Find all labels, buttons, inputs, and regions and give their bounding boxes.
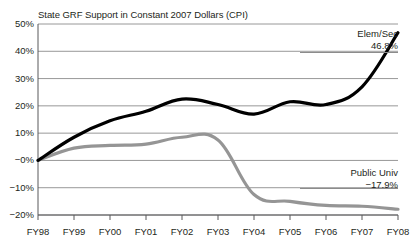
x-axis-tick-label: FY00	[90, 226, 130, 237]
y-axis-tick-label: −10%	[0, 183, 34, 193]
x-axis-tick-label: FY08	[378, 226, 416, 237]
y-axis-tick-label: −20%	[0, 210, 34, 220]
x-axis-tick-label: FY06	[306, 226, 346, 237]
series-line-public-univ	[38, 134, 398, 209]
series-label-elem-sec-value: 46.8%	[357, 40, 398, 52]
series-label-public-univ-value: −17.9%	[350, 179, 398, 191]
x-axis-tick-label: FY05	[270, 226, 310, 237]
x-axis-tick-label: FY04	[234, 226, 274, 237]
series-label-public-univ-name: Public Univ	[350, 167, 398, 179]
y-axis-tick-label: 10%	[0, 128, 34, 138]
x-axis-tick-label: FY99	[54, 226, 94, 237]
y-axis-tick-label: 50%	[0, 19, 34, 29]
chart-plot-area	[0, 0, 416, 248]
y-axis-tick-label: 30%	[0, 74, 34, 84]
x-axis-tick-label: FY01	[126, 226, 166, 237]
x-axis-tick-label: FY07	[342, 226, 382, 237]
series-label-elem-sec: Elem/Sec 46.8%	[357, 28, 398, 52]
x-axis-tick-label: FY02	[162, 226, 202, 237]
x-axis-ticks	[38, 215, 398, 220]
series-label-elem-sec-name: Elem/Sec	[357, 28, 398, 40]
chart-container: State GRF Support in Constant 2007 Dolla…	[0, 0, 416, 248]
y-axis-tick-label: 20%	[0, 101, 34, 111]
y-axis-tick-label: 40%	[0, 46, 34, 56]
x-axis-tick-label: FY98	[18, 226, 58, 237]
y-axis-tick-label: −0%	[0, 155, 34, 165]
series-label-public-univ: Public Univ −17.9%	[350, 167, 398, 191]
x-axis-tick-label: FY03	[198, 226, 238, 237]
